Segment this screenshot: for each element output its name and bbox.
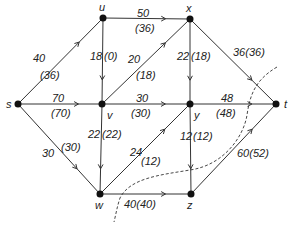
edge-capacity-label: 50	[137, 7, 150, 19]
edge-capacity-label: 70	[52, 92, 65, 104]
edge-capacity-label: 60(52)	[237, 147, 269, 159]
edge-capacity-label: 12	[180, 130, 192, 142]
edge-labels-layer: 40(36)50(36)18(0)20(18)22(18)36(36)70(70…	[33, 7, 269, 210]
edge-v-w	[100, 104, 102, 194]
node-w	[97, 191, 104, 198]
edge-flow-label: (30)	[131, 107, 151, 119]
edge-capacity-label: 22	[87, 128, 100, 140]
node-u	[100, 15, 107, 22]
node-t	[273, 101, 280, 108]
edge-y-z	[190, 104, 191, 194]
edge-capacity-label: 40	[33, 52, 46, 64]
node-label-t: t	[284, 98, 288, 110]
node-x	[187, 16, 194, 23]
node-label-s: s	[6, 98, 12, 110]
edge-flow-label: (18)	[136, 69, 156, 81]
edge-flow-label: (0)	[104, 50, 118, 62]
node-label-x: x	[185, 2, 192, 14]
node-label-z: z	[186, 199, 193, 211]
edge-capacity-label: 30	[136, 92, 149, 104]
edge-flow-label: (48)	[216, 107, 236, 119]
edge-flow-label: (12)	[193, 130, 213, 142]
node-v	[99, 101, 106, 108]
node-label-v: v	[107, 109, 114, 121]
edge-flow-label: (30)	[61, 141, 81, 153]
edge-flow-label: (18)	[191, 50, 211, 62]
edge-flow-label: (36)	[135, 22, 155, 34]
edge-capacity-label: 30	[42, 147, 55, 159]
node-label-w: w	[95, 199, 104, 211]
edge-capacity-label: 36(36)	[233, 46, 265, 58]
node-y	[187, 101, 194, 108]
edge-flow-label: (22)	[102, 128, 122, 140]
node-label-y: y	[193, 109, 201, 121]
edge-capacity-label: 20	[127, 53, 141, 65]
edge-flow-label: (70)	[51, 107, 71, 119]
edge-capacity-label: 40(40)	[124, 198, 156, 210]
node-s	[15, 101, 22, 108]
edge-capacity-label: 48	[221, 92, 234, 104]
node-label-u: u	[99, 1, 105, 13]
node-z	[188, 191, 195, 198]
edge-flow-label: (36)	[40, 69, 60, 81]
edge-capacity-label: 22	[176, 50, 189, 62]
flow-network-diagram: 40(36)50(36)18(0)20(18)22(18)36(36)70(70…	[0, 0, 294, 238]
edge-flow-label: (12)	[141, 155, 161, 167]
edge-capacity-label: 18	[90, 50, 103, 62]
